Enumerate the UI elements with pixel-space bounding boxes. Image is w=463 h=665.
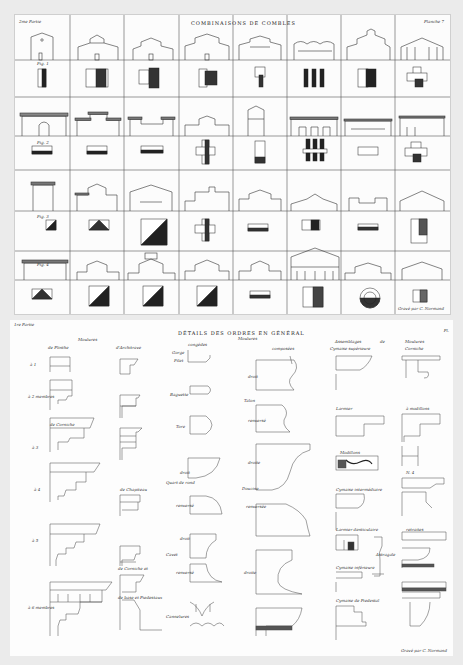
bottom-plate-details-des-ordres: 1re Partie DÉTAILS DES ORDRES EN GÉNÉRAL…	[10, 320, 453, 656]
top-plate-combinaisons-de-combles: 2me Partie COMBINAISONS DE COMBLES Planc…	[14, 14, 451, 315]
molding-details-drawing	[10, 320, 453, 656]
building-grid-drawing	[15, 15, 450, 314]
